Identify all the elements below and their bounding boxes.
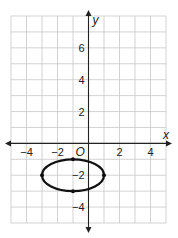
- ellipse-vertex-point: [71, 157, 75, 161]
- x-tick-label: 4: [147, 146, 153, 158]
- axes: [5, 10, 172, 233]
- y-tick-label: −2: [72, 169, 85, 181]
- ellipse-vertex-point: [102, 173, 106, 177]
- y-axis-arrow-up: [86, 10, 92, 16]
- coordinate-plane: −4−224642−2−4 x y O: [0, 0, 178, 238]
- y-axis-label: y: [92, 13, 100, 27]
- x-axis-arrow-left: [5, 140, 11, 146]
- origin-label: O: [76, 145, 85, 159]
- ellipse-vertex-point: [40, 173, 44, 177]
- ellipse-vertex-point: [71, 189, 75, 193]
- y-tick-label: 2: [78, 106, 84, 118]
- y-tick-label: 4: [78, 74, 84, 86]
- x-axis-label: x: [162, 128, 170, 142]
- y-tick-label: −4: [72, 201, 85, 213]
- y-axis-arrow-down: [86, 227, 92, 233]
- x-tick-label: −4: [20, 146, 33, 158]
- x-tick-label: −2: [51, 146, 64, 158]
- x-tick-label: 2: [116, 146, 122, 158]
- y-tick-label: 6: [78, 42, 84, 54]
